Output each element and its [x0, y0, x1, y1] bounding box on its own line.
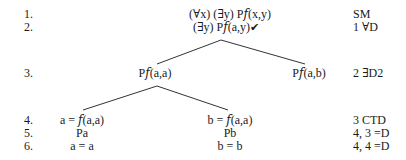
branch-line-left-2	[83, 86, 157, 110]
formula-line-3-left: P𝑓(a,a)	[139, 67, 172, 80]
branch-line-right-1	[221, 40, 305, 64]
formula-line-2: (∃y) P𝑓(a,y)✔	[193, 21, 259, 34]
formula-line-6-right: b = b	[218, 140, 243, 153]
line-number-3: 3.	[24, 67, 33, 80]
line-number-2: 2.	[24, 21, 33, 34]
branch-line-left-1	[157, 40, 221, 64]
justification-2: 1 ∀D	[353, 21, 378, 34]
formula-line-6-left: a = a	[70, 140, 93, 153]
branch-line-right-2	[157, 86, 228, 110]
formula-line-3-right: P𝑓(a,b)	[292, 67, 325, 80]
formula-line-2-text: (∃y) P𝑓(a,y)	[193, 20, 250, 34]
checkmark-icon: ✔	[250, 21, 259, 33]
justification-3: 2 ∃D2	[353, 67, 383, 80]
justification-6: 4, 4 =D	[353, 140, 389, 153]
line-number-6: 6.	[24, 140, 33, 153]
